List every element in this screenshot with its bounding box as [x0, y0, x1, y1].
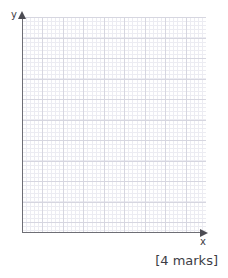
x-axis-label: x — [200, 236, 206, 247]
marks-allocation: [4 marks] — [155, 253, 218, 269]
y-axis-label: y — [11, 9, 17, 20]
y-axis-line — [22, 17, 23, 232]
x-axis-line — [22, 232, 206, 233]
graph-grid[interactable] — [22, 17, 206, 232]
graph-figure: y x [4 marks] — [0, 0, 228, 278]
arrow-up-icon — [18, 11, 26, 19]
